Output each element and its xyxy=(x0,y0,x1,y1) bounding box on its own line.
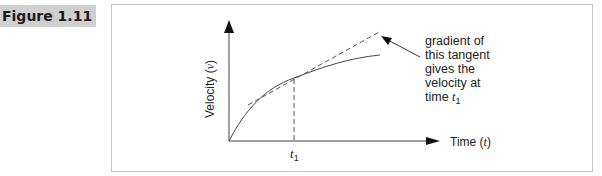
velocity-time-diagram: Velocity (v) Time (t) t1 gradient of thi… xyxy=(0,0,602,176)
y-axis-label: Velocity (v) xyxy=(203,60,217,118)
y-axis-arrowhead xyxy=(224,20,234,33)
annotation-line: time t1 xyxy=(425,90,461,106)
annotation-line: gradient of xyxy=(425,34,485,48)
annotation-line: this tangent xyxy=(425,48,490,62)
annotation-line: gives the xyxy=(425,62,475,76)
annotation-text: gradient of this tangent gives the veloc… xyxy=(425,34,490,106)
x-axis-label: Time (t) xyxy=(450,135,491,149)
tangent-line xyxy=(248,31,381,105)
annotation-arrowhead xyxy=(381,36,392,45)
velocity-curve xyxy=(229,55,380,141)
t1-label: t1 xyxy=(290,146,299,163)
annotation-line: velocity at xyxy=(425,76,481,90)
x-axis-arrowhead xyxy=(426,137,440,145)
